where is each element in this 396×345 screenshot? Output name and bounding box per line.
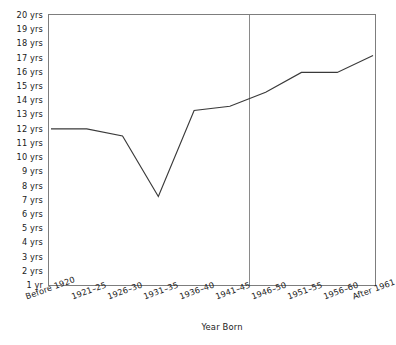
y-axis-tick-label: 4 yrs: [22, 237, 43, 247]
y-axis-tick-label: 17 yrs: [17, 53, 43, 63]
y-axis-tick-label: 2 yrs: [22, 266, 43, 276]
y-axis-tick-label: 6 yrs: [22, 209, 43, 219]
y-axis-tick-label: 10 yrs: [17, 152, 43, 162]
y-axis-tick-label: 8 yrs: [22, 181, 43, 191]
y-axis-tick-label: 7 yrs: [22, 195, 43, 205]
y-axis-tick-label: 5 yrs: [22, 223, 43, 233]
y-axis-tick-label: 19 yrs: [17, 24, 43, 34]
y-axis-tick-label: 16 yrs: [17, 67, 43, 77]
y-axis-tick-label: 11 yrs: [17, 138, 43, 148]
series-layer: [49, 15, 375, 285]
y-axis-tick-label: 14 yrs: [17, 95, 43, 105]
y-axis-tick-label: 20 yrs: [17, 10, 43, 20]
y-axis-tick-label: 13 yrs: [17, 109, 43, 119]
x-axis-title: Year Born: [201, 322, 242, 332]
y-axis-tick-label: 12 yrs: [17, 124, 43, 134]
data-line: [51, 55, 373, 196]
y-axis-tick-label: 3 yrs: [22, 252, 43, 262]
y-axis-tick-label: 15 yrs: [17, 81, 43, 91]
x-axis: Before 19201921–251926–301931–351936–401…: [0, 286, 388, 326]
y-axis-tick-label: 18 yrs: [17, 38, 43, 48]
plot-area: [48, 14, 376, 286]
y-axis-tick-label: 9 yrs: [22, 166, 43, 176]
